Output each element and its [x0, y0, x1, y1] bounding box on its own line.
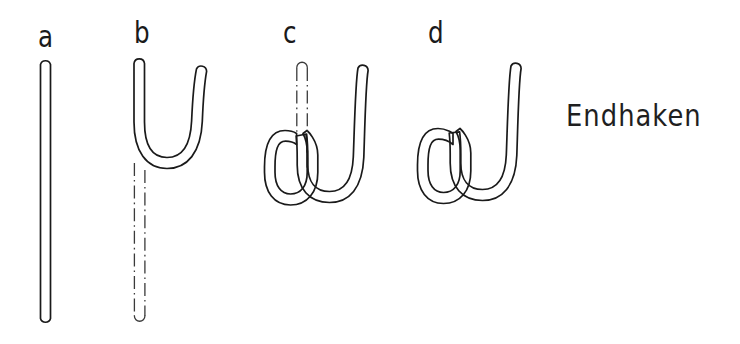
figure-c-u-hook-upturn	[265, 62, 369, 205]
figure-label-d: d	[428, 18, 444, 48]
endhaken-line-drawing	[0, 0, 740, 344]
figure-label-c: c	[283, 18, 297, 48]
figure-a-straight-bar	[41, 61, 51, 323]
phantom-bottom-cap	[134, 316, 145, 321]
figure-label-b: b	[134, 18, 150, 48]
figure-caption-endhaken: Endhaken	[566, 101, 702, 131]
figure-canvas: a b c d Endhaken	[0, 0, 740, 344]
figure-d-closed-s-hook	[418, 63, 522, 203]
figure-b-u-hook	[134, 59, 207, 321]
figure-label-a: a	[38, 22, 53, 52]
phantom-top-cap-c	[297, 62, 308, 67]
